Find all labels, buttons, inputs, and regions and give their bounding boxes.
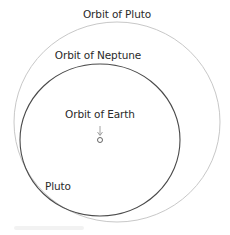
faint-caption (14, 226, 84, 230)
earth-orbit-label: Orbit of Earth (65, 109, 135, 120)
neptune-orbit-label: Orbit of Neptune (55, 50, 141, 61)
earth-arrow-icon (98, 126, 103, 136)
pluto-label: Pluto (45, 181, 71, 192)
orbit-diagram: Orbit of Pluto Orbit of Neptune Orbit of… (0, 0, 230, 235)
earth-orbit-circle (98, 138, 103, 143)
pluto-orbit-label: Orbit of Pluto (83, 9, 151, 20)
